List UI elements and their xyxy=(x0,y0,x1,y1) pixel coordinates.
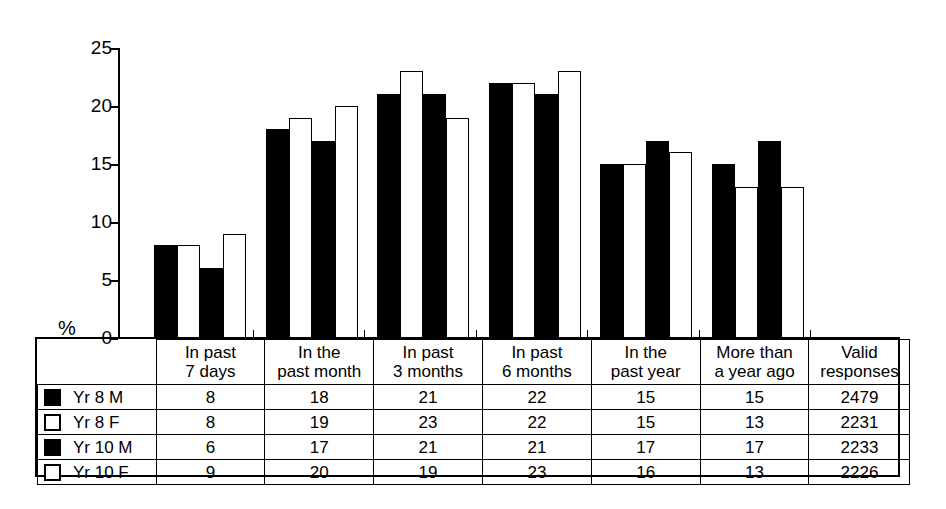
column-header-line2: past year xyxy=(592,362,700,381)
bar xyxy=(177,245,200,338)
table-cell: 9 xyxy=(156,460,265,485)
table-row: Yr 10 F920192316132226 xyxy=(38,460,910,485)
bar xyxy=(423,94,446,338)
table-cell: 21 xyxy=(374,385,483,410)
legend-header-cell xyxy=(38,340,157,385)
bar xyxy=(758,141,781,338)
bar xyxy=(781,187,804,338)
y-tick-mark xyxy=(110,164,118,166)
legend-label: Yr 8 F xyxy=(73,413,119,432)
column-header-7: Validresponses xyxy=(809,340,910,385)
y-tick-mark xyxy=(110,222,118,224)
table-cell: 17 xyxy=(265,435,374,460)
legend-swatch-dark xyxy=(44,439,61,456)
y-axis-unit-label: % xyxy=(58,318,76,338)
table-cell: 18 xyxy=(265,385,374,410)
table-cell: 15 xyxy=(700,385,809,410)
column-header-2: In thepast month xyxy=(265,340,374,385)
data-table: In past7 daysIn thepast monthIn past3 mo… xyxy=(35,337,900,477)
y-tick-mark xyxy=(110,48,118,50)
bar xyxy=(669,152,692,338)
column-header-line1: In the xyxy=(265,343,373,362)
column-header-3: In past3 months xyxy=(374,340,483,385)
bar xyxy=(154,245,177,338)
bar xyxy=(312,141,335,338)
legend-swatch-light xyxy=(44,464,61,481)
y-tick-label: 5 xyxy=(68,270,112,289)
column-header-6: More thana year ago xyxy=(700,340,809,385)
column-header-line2: 7 days xyxy=(157,362,265,381)
figure: 0510152025 % In past7 daysIn thepast mon… xyxy=(0,0,946,509)
table-cell: 19 xyxy=(265,410,374,435)
bar xyxy=(646,141,669,338)
bar xyxy=(377,94,400,338)
y-axis-line xyxy=(118,48,120,338)
y-tick-label: 25 xyxy=(68,38,112,57)
bar-group xyxy=(377,40,469,338)
table-cell: 15 xyxy=(591,385,700,410)
legend-cell: Yr 8 F xyxy=(38,410,157,435)
bar xyxy=(735,187,758,338)
bar xyxy=(223,234,246,338)
table-cell: 22 xyxy=(482,385,591,410)
column-header-line1: In the xyxy=(592,343,700,362)
bar xyxy=(535,94,558,338)
bar xyxy=(558,71,581,338)
column-header-line2: 6 months xyxy=(483,362,591,381)
column-header-line2: a year ago xyxy=(701,362,809,381)
y-tick-label: 15 xyxy=(68,154,112,173)
legend-cell: Yr 8 M xyxy=(38,385,157,410)
bar xyxy=(400,71,423,338)
legend-label: Yr 8 M xyxy=(73,388,123,407)
y-tick-mark xyxy=(110,280,118,282)
bar xyxy=(623,164,646,338)
table-cell: 23 xyxy=(374,410,483,435)
table-cell: 13 xyxy=(700,410,809,435)
bar xyxy=(289,118,312,338)
table-cell: 2231 xyxy=(809,410,910,435)
column-header-4: In past6 months xyxy=(482,340,591,385)
column-header-line1: In past xyxy=(374,343,482,362)
y-tick-label: 10 xyxy=(68,212,112,231)
column-header-line1: Valid xyxy=(809,343,909,362)
legend-cell: Yr 10 M xyxy=(38,435,157,460)
table-cell: 23 xyxy=(482,460,591,485)
column-header-5: In thepast year xyxy=(591,340,700,385)
column-header-line1: More than xyxy=(701,343,809,362)
column-header-line1: In past xyxy=(157,343,265,362)
table-row: Yr 10 M617212117172233 xyxy=(38,435,910,460)
bar-group xyxy=(600,40,692,338)
legend-swatch-dark xyxy=(44,389,61,406)
bar xyxy=(200,268,223,338)
table-cell: 22 xyxy=(482,410,591,435)
column-header-line2: past month xyxy=(265,362,373,381)
table-cell: 2233 xyxy=(809,435,910,460)
table-cell: 13 xyxy=(700,460,809,485)
y-tick-mark xyxy=(110,106,118,108)
bar xyxy=(712,164,735,338)
y-axis-labels: 0510152025 xyxy=(60,40,112,338)
legend-swatch-light xyxy=(44,414,61,431)
table-cell: 20 xyxy=(265,460,374,485)
legend-label: Yr 10 F xyxy=(73,463,129,482)
table-header-row: In past7 daysIn thepast monthIn past3 mo… xyxy=(38,340,910,385)
bar xyxy=(446,118,469,338)
column-header-line2: responses xyxy=(809,362,909,381)
table-cell: 6 xyxy=(156,435,265,460)
table-cell: 8 xyxy=(156,385,265,410)
bar xyxy=(335,106,358,338)
table-cell: 21 xyxy=(482,435,591,460)
table-cell: 2479 xyxy=(809,385,910,410)
bar-group xyxy=(712,40,804,338)
bar xyxy=(600,164,623,338)
table-body: Yr 8 M818212215152479Yr 8 F8192322151322… xyxy=(38,385,910,485)
legend-label: Yr 10 M xyxy=(73,438,133,457)
legend-cell: Yr 10 F xyxy=(38,460,157,485)
table-cell: 2226 xyxy=(809,460,910,485)
column-header-line2: 3 months xyxy=(374,362,482,381)
column-header-1: In past7 days xyxy=(156,340,265,385)
bar-group xyxy=(154,40,246,338)
bar-group xyxy=(489,40,581,338)
table-cell: 8 xyxy=(156,410,265,435)
bar xyxy=(266,129,289,338)
